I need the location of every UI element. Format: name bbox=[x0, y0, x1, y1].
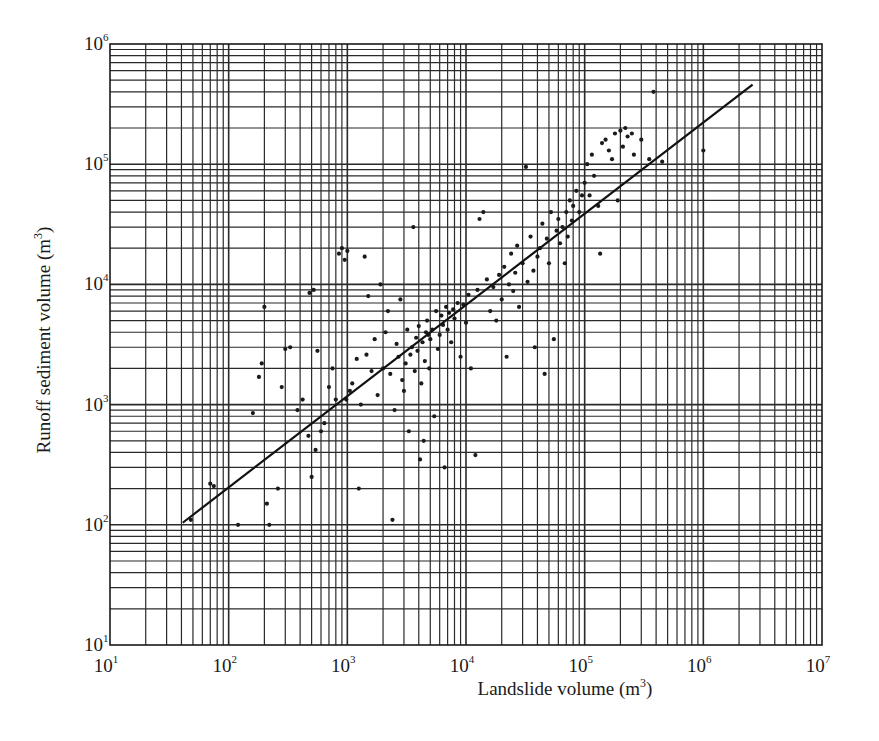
data-point bbox=[283, 347, 287, 351]
data-point bbox=[592, 174, 596, 178]
y-axis-title: Runoff sediment volume (m3) bbox=[31, 227, 55, 454]
data-point bbox=[260, 361, 264, 365]
data-point bbox=[337, 252, 341, 256]
data-point bbox=[543, 372, 547, 376]
data-point bbox=[469, 366, 473, 370]
data-point bbox=[327, 385, 331, 389]
data-point bbox=[408, 353, 412, 357]
data-point bbox=[554, 229, 558, 233]
data-point bbox=[513, 271, 517, 275]
data-point bbox=[540, 222, 544, 226]
data-point bbox=[350, 381, 354, 385]
data-point bbox=[251, 411, 255, 415]
data-point bbox=[432, 414, 436, 418]
data-point bbox=[494, 318, 498, 322]
data-point bbox=[236, 523, 240, 527]
data-point bbox=[517, 305, 521, 309]
data-point bbox=[301, 398, 305, 402]
data-point bbox=[330, 366, 334, 370]
data-point bbox=[485, 277, 489, 281]
x-tick-label: 105 bbox=[568, 653, 593, 676]
data-point bbox=[632, 153, 636, 157]
data-point bbox=[481, 210, 485, 214]
data-point bbox=[383, 330, 387, 334]
data-point bbox=[427, 366, 431, 370]
data-point bbox=[552, 337, 556, 341]
data-point bbox=[600, 141, 604, 145]
loglog-scatter-chart: 101102103104105106107 101102103104105106… bbox=[0, 0, 879, 741]
x-tick-label: 106 bbox=[687, 653, 712, 676]
data-point bbox=[497, 273, 501, 277]
y-tick-label: 103 bbox=[84, 392, 109, 415]
data-point bbox=[307, 291, 311, 295]
data-point bbox=[334, 398, 338, 402]
data-point bbox=[524, 165, 528, 169]
data-point bbox=[402, 389, 406, 393]
data-point bbox=[630, 131, 634, 135]
data-point bbox=[568, 198, 572, 202]
data-point bbox=[407, 429, 411, 433]
data-point bbox=[574, 189, 578, 193]
x-tick-label: 103 bbox=[331, 653, 356, 676]
data-point bbox=[477, 217, 481, 221]
data-point bbox=[587, 193, 591, 197]
data-point bbox=[400, 378, 404, 382]
x-tick-label: 107 bbox=[806, 653, 831, 676]
data-point bbox=[295, 408, 299, 412]
data-point bbox=[515, 244, 519, 248]
data-point bbox=[363, 255, 367, 259]
data-point bbox=[625, 134, 629, 138]
y-tick-label: 101 bbox=[84, 632, 109, 655]
data-point bbox=[507, 282, 511, 286]
data-point bbox=[651, 90, 655, 94]
data-point bbox=[392, 408, 396, 412]
data-point bbox=[535, 255, 539, 259]
data-point bbox=[444, 305, 448, 309]
y-tick-label: 102 bbox=[84, 512, 109, 535]
y-tick-label: 104 bbox=[84, 271, 109, 294]
data-point bbox=[451, 307, 455, 311]
data-point bbox=[531, 269, 535, 273]
data-point bbox=[419, 381, 423, 385]
data-point bbox=[580, 193, 584, 197]
data-point bbox=[425, 318, 429, 322]
data-point bbox=[357, 487, 361, 491]
data-point bbox=[545, 237, 549, 241]
data-point bbox=[528, 234, 532, 238]
data-point bbox=[359, 403, 363, 407]
data-point bbox=[280, 385, 284, 389]
data-point bbox=[577, 210, 581, 214]
data-point bbox=[257, 375, 261, 379]
data-point bbox=[386, 309, 390, 313]
data-point bbox=[464, 321, 468, 325]
data-point bbox=[355, 357, 359, 361]
data-point bbox=[525, 280, 529, 284]
data-point bbox=[418, 457, 422, 461]
data-point bbox=[436, 347, 440, 351]
data-point bbox=[310, 475, 314, 479]
data-point bbox=[563, 261, 567, 265]
data-point bbox=[322, 421, 326, 425]
data-point bbox=[509, 252, 513, 256]
data-point bbox=[647, 157, 651, 161]
data-point bbox=[340, 246, 344, 250]
data-point bbox=[417, 324, 421, 328]
data-point bbox=[607, 148, 611, 152]
data-point bbox=[571, 204, 575, 208]
data-point bbox=[639, 138, 643, 142]
data-point bbox=[388, 372, 392, 376]
data-point bbox=[404, 361, 408, 365]
data-point bbox=[610, 157, 614, 161]
data-point bbox=[405, 328, 409, 332]
x-axis-title: Landslide volume (m3) bbox=[478, 676, 653, 700]
data-point bbox=[366, 294, 370, 298]
data-point bbox=[313, 448, 317, 452]
data-point bbox=[378, 282, 382, 286]
data-point bbox=[616, 198, 620, 202]
data-point bbox=[414, 336, 418, 340]
data-point bbox=[556, 217, 560, 221]
data-point bbox=[312, 288, 316, 292]
data-point bbox=[343, 258, 347, 262]
data-point bbox=[473, 453, 477, 457]
data-point bbox=[458, 355, 462, 359]
